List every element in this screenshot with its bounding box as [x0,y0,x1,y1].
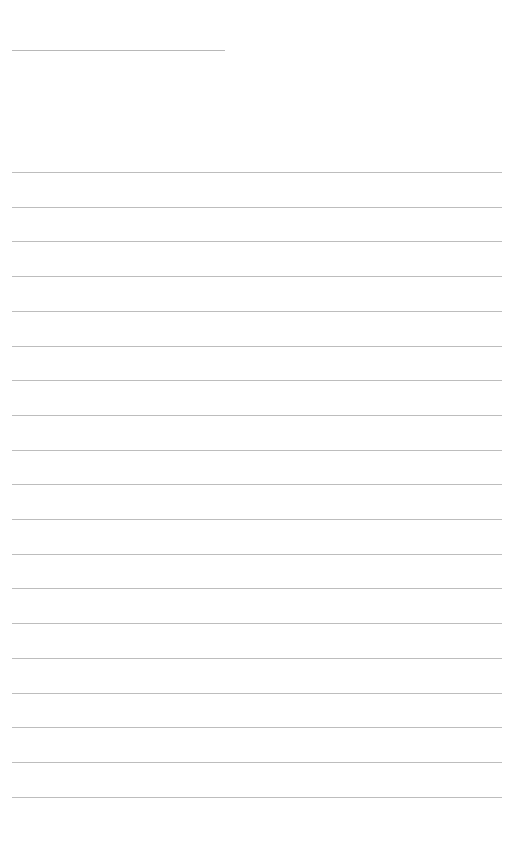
ruled-line [12,311,502,312]
ruled-line [12,693,502,694]
ruled-line [12,172,502,173]
ruled-line [12,762,502,763]
ruled-line [12,241,502,242]
ruled-line [12,623,502,624]
ruled-line [12,415,502,416]
ruled-line [12,588,502,589]
ruled-line [12,519,502,520]
ruled-line [12,484,502,485]
ruled-line [12,554,502,555]
ruled-line [12,658,502,659]
ruled-line [12,727,502,728]
ruled-line [12,797,502,798]
ruled-line [12,276,502,277]
lined-paper-page [0,0,524,859]
ruled-line [12,380,502,381]
ruled-line [12,346,502,347]
header-write-line [12,50,225,51]
ruled-line [12,207,502,208]
ruled-line [12,450,502,451]
